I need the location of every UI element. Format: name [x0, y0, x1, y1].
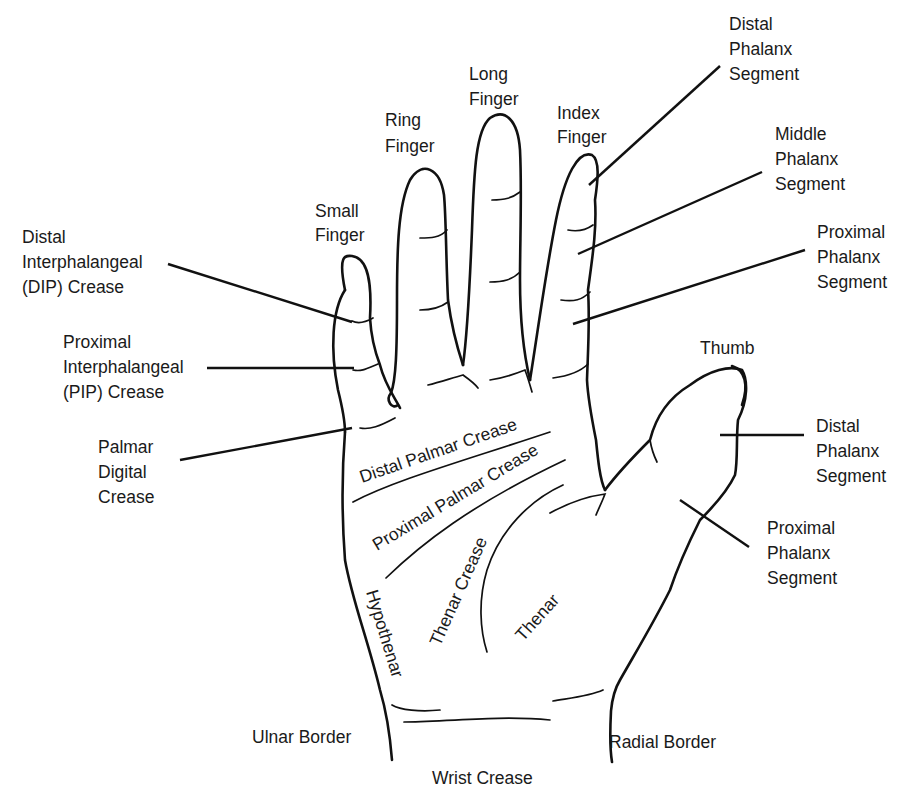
- long-finger-outline: [463, 115, 530, 380]
- label-thenar-crease: Thenar Crease: [425, 534, 491, 649]
- finger-middle-phalanx-leader: [578, 172, 762, 254]
- label-thumb-proximal-phalanx: Proximal Phalanx Segment: [767, 518, 840, 588]
- index-palmar-digital-crease: [553, 364, 588, 378]
- wrist-crease-line: [404, 718, 550, 722]
- label-finger-proximal-phalanx: Proximal Phalanx Segment: [817, 222, 890, 292]
- label-wrist-crease: Wrist Crease: [432, 768, 533, 788]
- label-pip-crease: Proximal Interphalangeal (PIP) Crease: [63, 332, 189, 402]
- label-thenar: Thenar: [511, 590, 563, 645]
- index-finger-outline: [530, 154, 605, 490]
- label-ring-finger: Ring Finger: [385, 110, 435, 156]
- long-dip-crease: [492, 192, 520, 200]
- hand-anatomy-diagram: Small Finger Ring Finger Long Finger Ind…: [0, 0, 906, 799]
- ring-dip-crease: [420, 230, 447, 238]
- label-finger-distal-phalanx: Distal Phalanx Segment: [729, 14, 799, 84]
- thumb-ip-crease: [650, 440, 657, 462]
- dip-leader: [168, 264, 352, 322]
- ring-finger-outline: [391, 169, 463, 393]
- long-palmar-digital-crease: [490, 370, 532, 392]
- palmar-digital-leader: [180, 428, 352, 460]
- small-finger-ulnar-edge: [333, 290, 345, 432]
- ring-pip-crease: [420, 302, 448, 310]
- long-pip-crease: [490, 272, 520, 282]
- small-finger-outline: [342, 256, 400, 408]
- label-dip-crease: Distal Interphalangeal (DIP) Crease: [22, 227, 148, 297]
- finger-distal-phalanx-leader: [589, 66, 720, 185]
- label-index-finger: Index Finger: [557, 103, 607, 147]
- label-finger-middle-phalanx: Middle Phalanx Segment: [775, 124, 845, 194]
- label-thumb: Thumb: [700, 338, 754, 358]
- finger-proximal-phalanx-leader: [573, 250, 805, 324]
- ring-palmar-digital-crease: [428, 375, 478, 388]
- label-hypothenar: Hypothenar: [362, 587, 408, 680]
- small-pip-crease: [353, 364, 378, 371]
- index-pip-crease: [561, 292, 590, 301]
- label-radial-border: Radial Border: [609, 732, 716, 752]
- thumb-mcp-crease: [550, 494, 605, 515]
- small-palmar-digital-crease: [360, 418, 395, 429]
- radial-wrist-crease: [553, 690, 603, 701]
- hypothenar-distal-crease: [392, 705, 440, 711]
- label-small-finger: Small Finger: [315, 201, 365, 245]
- index-dip-crease: [568, 225, 593, 231]
- label-thumb-distal-phalanx: Distal Phalanx Segment: [816, 416, 886, 486]
- label-palmar-digital-crease: Palmar Digital Crease: [98, 437, 158, 507]
- label-ulnar-border: Ulnar Border: [252, 727, 351, 747]
- hand-illustration: Small Finger Ring Finger Long Finger Ind…: [0, 0, 906, 799]
- thumb-outline: [605, 368, 746, 762]
- label-long-finger: Long Finger: [469, 64, 519, 109]
